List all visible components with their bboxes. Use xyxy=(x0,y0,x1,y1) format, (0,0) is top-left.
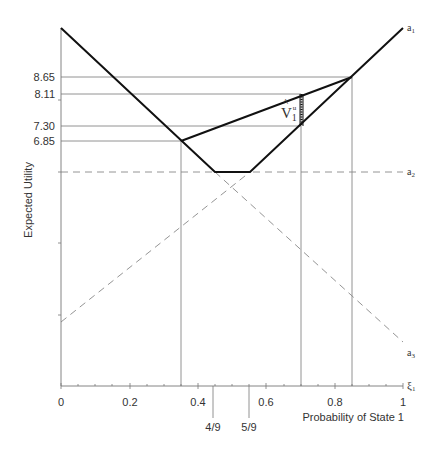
svg-text:4/9: 4/9 xyxy=(205,421,220,433)
x-axis-title: Probability of State 1 xyxy=(302,411,404,423)
series-label-a2: a2 xyxy=(407,166,415,179)
series-a3-dashed xyxy=(215,172,403,342)
svg-text:0.4: 0.4 xyxy=(190,396,205,408)
expected-utility-chart: V1u ^ a1 a2 a3 ξ1 8.65 8.11 7.30 6.85 0 … xyxy=(0,0,438,454)
svg-text:0: 0 xyxy=(58,396,64,408)
svg-text:5/9: 5/9 xyxy=(241,421,256,433)
y-tick-labels: 8.65 8.11 7.30 6.85 xyxy=(34,71,55,147)
series-label-a1: a1 xyxy=(407,22,415,35)
series-a1-dashed xyxy=(61,172,250,322)
hat-accent: ^ xyxy=(283,96,289,108)
svg-text:1: 1 xyxy=(400,396,406,408)
svg-text:8.65: 8.65 xyxy=(34,71,55,83)
series-label-a3: a3 xyxy=(407,347,415,360)
chord-line xyxy=(181,77,352,141)
svg-text:8.11: 8.11 xyxy=(34,88,55,100)
svg-text:0.6: 0.6 xyxy=(258,396,273,408)
svg-text:6.85: 6.85 xyxy=(34,135,55,147)
fraction-markers: 4/9 5/9 xyxy=(205,421,256,433)
svg-text:7.30: 7.30 xyxy=(34,120,55,132)
y-axis-title: Expected Utility xyxy=(22,162,34,238)
vertical-reference-lines xyxy=(181,77,352,418)
value-interval-marker xyxy=(300,94,303,126)
x-tick-labels: 0 0.2 0.4 0.6 0.8 1 xyxy=(58,396,406,408)
svg-text:0.8: 0.8 xyxy=(327,396,342,408)
svg-text:0.2: 0.2 xyxy=(122,396,137,408)
x-axis-symbol: ξ1 xyxy=(407,379,416,393)
